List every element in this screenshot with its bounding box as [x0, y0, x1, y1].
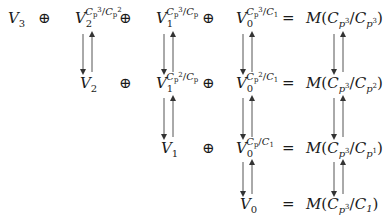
arrow-layer [0, 0, 388, 219]
arrow-pair-v1-b [164, 98, 173, 137]
arrow-pair-m-b [334, 98, 343, 137]
decomposition-diagram: V3 ⊕ V2Cp3/Cp2 ⊕ V1Cp3/Cp ⊕ V0Cp3/C1 = M… [0, 0, 388, 219]
arrow-pair-v2 [83, 34, 92, 72]
arrow-pair-v0-c [243, 162, 252, 194]
arrow-pair-v0-b [243, 98, 252, 137]
arrow-pair-m-a [334, 34, 343, 72]
arrow-pair-v0-a [243, 34, 252, 72]
arrow-pair-v1-a [164, 34, 173, 72]
arrow-pair-m-c [334, 162, 343, 194]
